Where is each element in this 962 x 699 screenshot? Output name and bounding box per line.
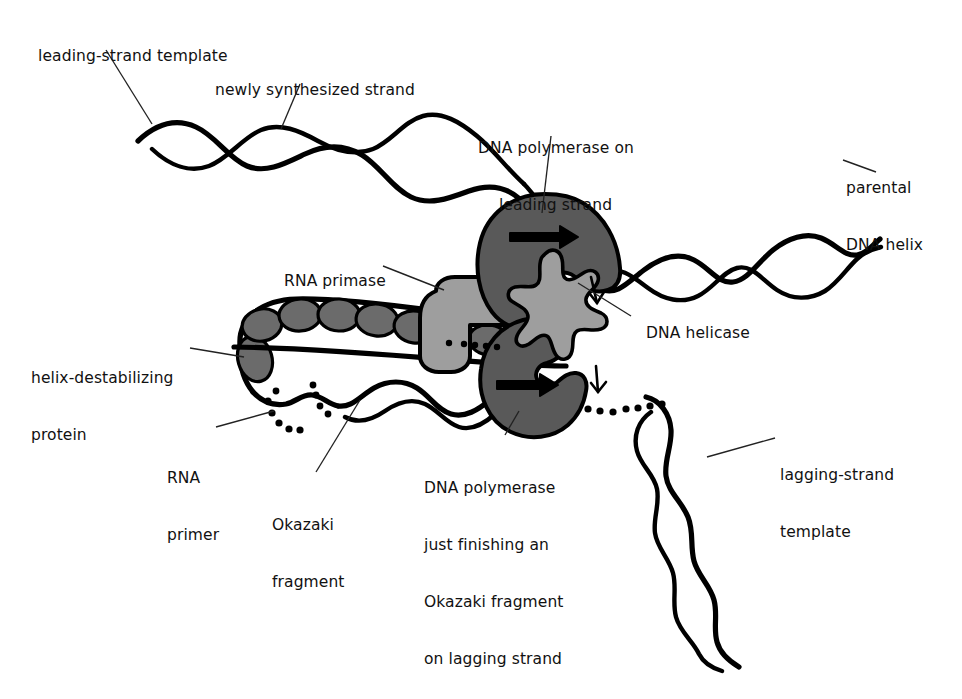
label-parental-dna-helix: parental DNA helix (846, 141, 923, 274)
label-dna-polymerase-leading: DNA polymerase on leading strand (478, 101, 633, 234)
label-dna-polymerase-lagging: DNA polymerase just finishing an Okazaki… (424, 441, 564, 688)
label-rna-primer: RNA primer (167, 431, 219, 564)
label-dna-helicase: DNA helicase (636, 305, 750, 343)
label-lagging-strand-template: lagging-strand template (780, 428, 894, 561)
label-rna-primase: RNA primase (274, 253, 386, 291)
label-okazaki-fragment: Okazaki fragment (272, 478, 345, 611)
ssb-bead (317, 298, 360, 331)
label-newly-synthesized-strand: newly synthesized strand (205, 62, 415, 100)
ssb-bead (278, 298, 322, 333)
label-helix-destabilizing-protein: helix-destabilizing protein (31, 331, 174, 464)
label-leading-strand-template: leading-strand template (28, 28, 228, 66)
